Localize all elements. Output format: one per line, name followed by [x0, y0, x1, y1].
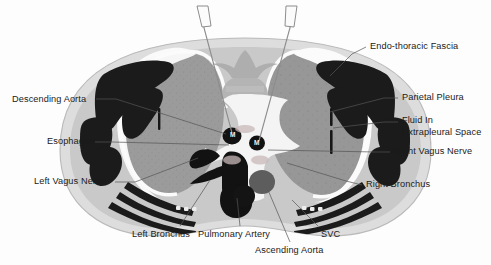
label-parietal-pleura: Parietal Pleura — [402, 92, 464, 104]
ct-figure-container: Descending Aorta Esophagus Left Vagus Ne… — [0, 0, 491, 265]
label-fluid-in: Fluid In — [402, 115, 433, 127]
label-esophagus: Esophagus — [47, 136, 94, 148]
label-svc: SVC — [321, 229, 340, 241]
marker-m-right: M — [254, 140, 259, 147]
label-endo-thoracic-fascia: Endo-thoracic Fascia — [370, 41, 458, 53]
label-right-bronchus: Right Bronchus — [366, 179, 430, 191]
label-extrapleural-space: Extrapleural Space — [402, 127, 481, 139]
pleural-marks-left — [158, 108, 160, 130]
label-descending-aorta: Descending Aorta — [12, 94, 86, 106]
label-ascending-aorta: Ascending Aorta — [255, 245, 323, 257]
svc-lumen — [233, 185, 255, 207]
pleural-marks — [330, 108, 333, 154]
label-left-bronchus: Left Bronchus — [132, 229, 190, 241]
marker-m-left: M — [230, 132, 235, 139]
label-pulmonary-artery: Pulmonary Artery — [198, 229, 270, 241]
label-left-vagus-nerve: Left Vagus Nerve — [34, 176, 106, 188]
label-right-vagus-nerve: Right Vagus Nerve — [394, 146, 472, 158]
